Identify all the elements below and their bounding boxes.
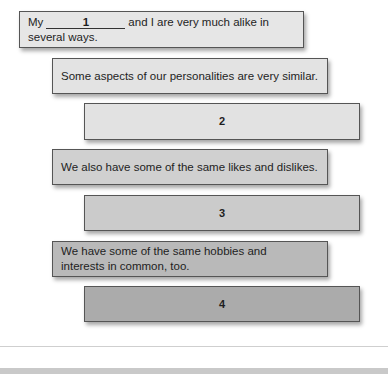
supporting-sentence-likes: We also have some of the same likes and … [52,149,328,185]
detail-number: 2 [219,114,225,129]
supporting-sentence-hobbies: We have some of the same hobbies and int… [52,241,328,277]
topic-prefix: My [28,16,43,28]
topic-sentence-box: My1and I are very much alike in several … [19,11,304,48]
supporting-sentence-text: Some aspects of our personalities are ve… [61,69,318,84]
detail-number: 3 [219,206,225,221]
detail-box-2[interactable]: 2 [84,103,360,140]
supporting-sentence-personalities: Some aspects of our personalities are ve… [52,58,328,94]
detail-number: 4 [219,297,225,312]
detail-box-4[interactable]: 4 [84,286,360,322]
topic-sentence-text: My1and I are very much alike in several … [28,15,295,45]
supporting-sentence-text: We also have some of the same likes and … [61,160,318,175]
supporting-sentence-text: We have some of the same hobbies and int… [61,244,301,274]
bottom-strip [0,368,388,374]
blank-1[interactable]: 1 [46,16,125,29]
divider-line [0,346,388,347]
detail-box-3[interactable]: 3 [84,195,360,231]
